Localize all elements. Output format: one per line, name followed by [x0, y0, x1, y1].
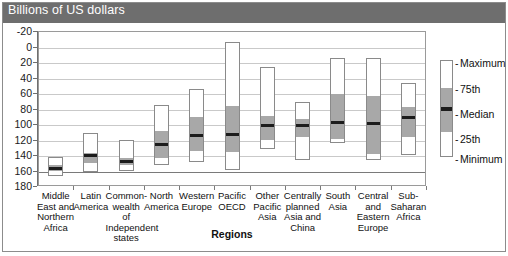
- legend-item: -75th: [455, 83, 480, 95]
- box-plot-bar: [295, 102, 310, 161]
- y-tick-label: 120: [2, 134, 32, 146]
- y-tick-label: 0: [2, 41, 32, 53]
- box-plot-bar: [366, 58, 381, 160]
- x-category-label-line: Sub-: [388, 191, 429, 202]
- interquartile-range: [331, 94, 344, 139]
- y-tick-mark: [33, 62, 37, 63]
- legend-item: -Minimum: [455, 153, 503, 165]
- y-tick-label: 160: [2, 165, 32, 177]
- x-category-label-line: Asia and: [282, 212, 323, 223]
- interquartile-range: [226, 106, 239, 153]
- box-plot-bar: [189, 89, 204, 162]
- y-tick-label: 180: [2, 180, 32, 192]
- legend-item-label: 25th: [460, 133, 480, 145]
- y-tick-mark: [33, 155, 37, 156]
- y-tick-mark: [33, 124, 37, 125]
- y-tick-label: 100: [2, 118, 32, 130]
- median-line: [402, 116, 415, 119]
- x-tick-mark: [73, 186, 74, 190]
- x-tick-mark: [355, 186, 356, 190]
- median-line: [49, 167, 62, 170]
- median-line: [296, 124, 309, 127]
- box-plot-bar: [48, 157, 63, 176]
- y-tick-mark: [33, 31, 37, 32]
- box-plot-bar: [83, 133, 98, 173]
- legend-item: -25th: [455, 133, 480, 145]
- x-category-label-line: Northern: [35, 212, 76, 223]
- legend-item-label: Maximum: [460, 57, 506, 69]
- legend-item: -Maximum: [455, 57, 506, 69]
- y-tick-mark: [33, 93, 37, 94]
- legend-sample-bar: [440, 60, 453, 157]
- box-plot-bar: [401, 83, 416, 155]
- x-category-label: Sub-SaharanAfrica: [388, 191, 429, 223]
- x-category-label-line: Africa: [388, 212, 429, 223]
- y-tick-label: -20: [2, 25, 32, 37]
- median-line: [331, 121, 344, 124]
- box-plot-bar: [225, 42, 240, 171]
- median-line: [120, 160, 133, 163]
- y-tick-label: 20: [2, 56, 32, 68]
- y-tick-label: 60: [2, 87, 32, 99]
- median-line: [367, 122, 380, 125]
- box-plot-bar: [260, 67, 275, 148]
- x-tick-mark: [426, 186, 427, 190]
- median-line: [190, 134, 203, 137]
- median-line: [84, 154, 97, 157]
- legend-item-label: Median: [460, 108, 494, 120]
- y-tick-mark: [33, 140, 37, 141]
- y-tick-mark: [33, 171, 37, 172]
- legend-item-label: Minimum: [460, 153, 503, 165]
- chart-title: Billions of US dollars: [8, 3, 125, 17]
- y-tick-label: 140: [2, 149, 32, 161]
- x-tick-mark: [214, 186, 215, 190]
- y-tick-label: 40: [2, 72, 32, 84]
- y-tick-mark: [33, 109, 37, 110]
- interquartile-range: [402, 107, 415, 136]
- y-tick-mark: [33, 47, 37, 48]
- chart-screenshot: Billions of US dollars 18016014012010080…: [0, 0, 508, 256]
- y-axis-line: [37, 31, 38, 186]
- median-line: [226, 133, 239, 136]
- y-tick-mark: [33, 186, 37, 187]
- legend-item: -Median: [455, 108, 494, 120]
- median-line: [261, 124, 274, 127]
- x-tick-mark: [391, 186, 392, 190]
- box-plot-bar: [330, 58, 345, 143]
- median-line: [155, 143, 168, 146]
- box-plot-bar: [119, 140, 134, 172]
- x-axis-title: Regions: [38, 228, 426, 240]
- legend-median-line: [441, 107, 452, 111]
- x-category-label-line: of: [106, 212, 147, 223]
- interquartile-range: [367, 96, 380, 154]
- interquartile-range: [261, 116, 274, 141]
- y-tick-label: 80: [2, 103, 32, 115]
- interquartile-range: [296, 119, 309, 137]
- box-plot-bar: [154, 105, 169, 165]
- legend-item-label: 75th: [460, 83, 480, 95]
- x-tick-mark: [250, 186, 251, 190]
- y-tick-mark: [33, 78, 37, 79]
